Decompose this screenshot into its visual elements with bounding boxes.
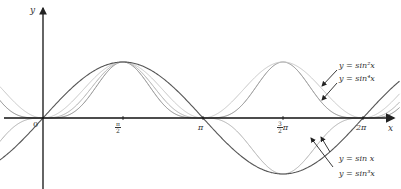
annotation-arrow bbox=[322, 70, 337, 86]
series-line bbox=[0, 62, 400, 118]
y-axis-label: y bbox=[30, 6, 35, 15]
tick-denominator: 2 bbox=[278, 128, 282, 134]
x-tick-2pi: 2π bbox=[356, 124, 366, 132]
tick-suffix: π bbox=[283, 123, 288, 132]
tick-denominator: 2 bbox=[116, 128, 120, 134]
annotation-arrow bbox=[321, 137, 330, 152]
x-tick-3pi-over-2: 32π bbox=[277, 121, 288, 134]
series-line bbox=[0, 62, 400, 118]
annotation-sin4: y = sin⁴x bbox=[339, 75, 375, 83]
origin-label: 0 bbox=[33, 121, 38, 129]
annotation-sin3: y = sin³x bbox=[339, 170, 375, 178]
x-tick-pi-over-2: π2 bbox=[115, 121, 121, 134]
annotation-sin2: y = sin²x bbox=[339, 62, 375, 70]
x-tick-pi: π bbox=[198, 124, 203, 132]
annotation-sinx: y = sin x bbox=[339, 155, 374, 163]
x-axis-label: x bbox=[388, 124, 393, 133]
